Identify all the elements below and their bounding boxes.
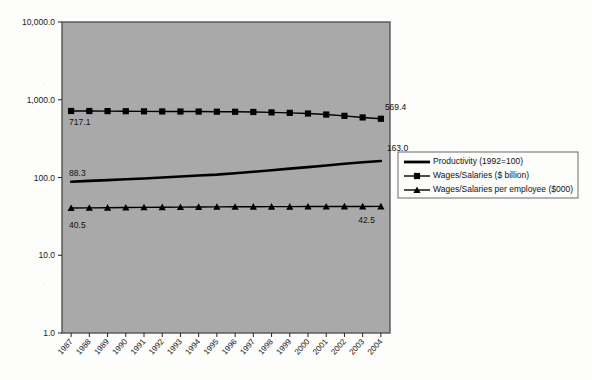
- data-label-start: 717.1: [69, 117, 91, 127]
- y-tick-label: 1,000.0: [27, 95, 56, 105]
- series-marker-square: [196, 108, 202, 114]
- series-marker-square: [378, 116, 384, 122]
- data-label-end: 569.4: [385, 102, 407, 112]
- data-label-end: 42.5: [358, 215, 375, 225]
- legend-item-label: Productivity (1992=100): [433, 156, 523, 166]
- series-marker-square: [86, 108, 92, 114]
- series-marker-square: [268, 109, 274, 115]
- series-marker-square: [287, 110, 293, 116]
- series-marker-square: [177, 108, 183, 114]
- y-tick-label: 10.0: [38, 250, 55, 260]
- data-label-start: 88.3: [69, 168, 86, 178]
- series-marker-square: [104, 108, 110, 114]
- y-tick-label: 100.0: [34, 173, 56, 183]
- legend-marker-square: [414, 173, 420, 179]
- y-tick-label: 10,000.0: [22, 17, 55, 27]
- line-chart: 1.010.0100.01,000.010,000.0 198719881989…: [0, 0, 592, 380]
- y-tick-label: 1.0: [43, 328, 55, 338]
- series-marker-square: [159, 108, 165, 114]
- series-marker-square: [232, 109, 238, 115]
- series-marker-square: [341, 113, 347, 119]
- series-marker-square: [250, 109, 256, 115]
- series-marker-square: [360, 114, 366, 120]
- chart-legend: Productivity (1992=100)Wages/Salaries ($…: [398, 152, 578, 198]
- series-marker-square: [141, 108, 147, 114]
- series-marker-square: [323, 111, 329, 117]
- legend-item-label: Wages/Salaries ($ billion): [433, 170, 529, 180]
- series-marker-square: [305, 110, 311, 116]
- series-marker-square: [68, 108, 74, 114]
- chart-figure: 1.010.0100.01,000.010,000.0 198719881989…: [0, 0, 592, 380]
- legend-item-label: Wages/Salaries per employee ($000): [433, 184, 573, 194]
- data-label-start: 40.5: [69, 220, 86, 230]
- series-marker-square: [214, 109, 220, 115]
- series-marker-square: [123, 108, 129, 114]
- plot-area: [62, 22, 390, 333]
